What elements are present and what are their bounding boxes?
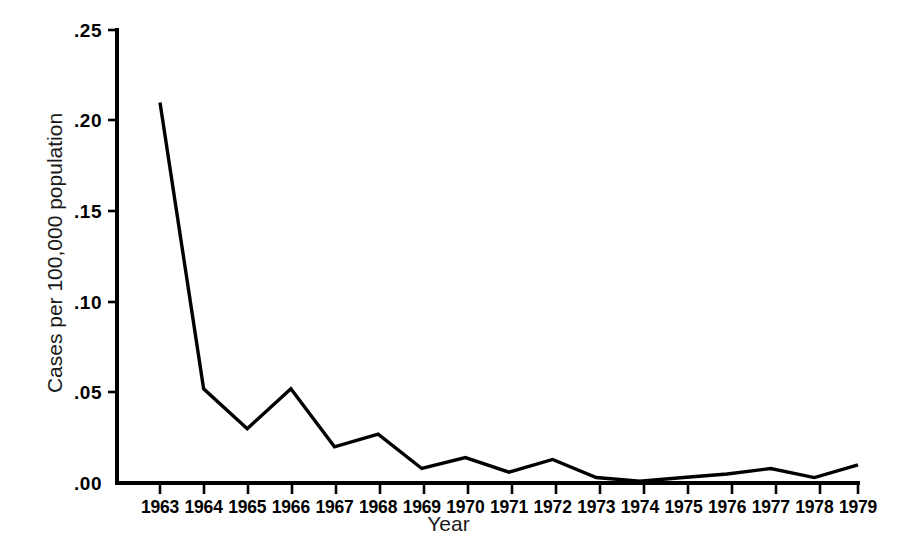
y-axis-title: Cases per 100,000 population xyxy=(43,43,67,463)
ytick-label-025: .25 xyxy=(54,21,102,40)
data-series-line xyxy=(160,102,858,481)
axis-lines xyxy=(117,30,858,483)
line-chart-plot xyxy=(0,0,897,555)
chart-figure: .25 .20 .15 .10 .05 .00 1963196419651966… xyxy=(0,0,897,555)
x-axis-title: Year xyxy=(0,512,897,536)
ytick-label-000: .00 xyxy=(54,474,102,493)
